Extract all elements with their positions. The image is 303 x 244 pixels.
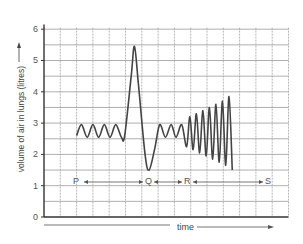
y-tick-0: 0 [33,212,38,222]
y-axis-label: volume of air in lungs (litres) [16,54,26,184]
y-tick-4: 4 [33,87,38,97]
label-r: R [184,176,191,186]
time-arrow [44,225,274,229]
label-p: P [73,176,79,186]
axes [41,25,289,217]
y-tick-3: 3 [33,118,38,128]
y-tick-5: 5 [33,55,38,65]
y-tick-6: 6 [33,24,38,34]
segment-arrows [84,180,263,184]
grid [44,28,289,217]
y-tick-1: 1 [33,181,38,191]
x-axis-label: time [177,222,194,232]
y-tick-2: 2 [33,149,38,159]
label-q: Q [145,176,152,186]
lung-volume-line [77,46,233,170]
lung-volume-chart [0,0,303,244]
label-s: S [265,176,271,186]
